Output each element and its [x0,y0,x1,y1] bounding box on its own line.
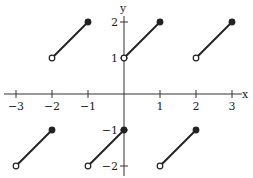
open-endpoint [85,163,91,169]
closed-endpoint [49,127,55,133]
y-tick-label: 1 [111,52,118,65]
y-tick-label: −1 [102,124,118,137]
open-endpoint [49,55,55,61]
closed-endpoint [85,19,91,25]
function-graph: −3−2−1123 21−1−2 x y [0,0,253,178]
segment [13,127,55,169]
segment [157,127,199,169]
closed-endpoint [193,127,199,133]
closed-endpoint [121,127,127,133]
segment [49,19,91,61]
open-endpoint [13,163,19,169]
open-endpoint [157,163,163,169]
closed-endpoint [229,19,235,25]
x-tick-label: 1 [157,100,164,113]
x-tick-label: −2 [44,100,60,113]
x-tick-label: 2 [193,100,200,113]
y-tick-label: −2 [102,160,118,173]
segment [121,19,163,61]
y-axis-label: y [119,2,127,15]
open-endpoint [121,55,127,61]
segment [193,19,235,61]
x-tick-label: 3 [229,100,236,113]
closed-endpoint [157,19,163,25]
x-tick-label: −3 [8,100,24,113]
x-tick-label: −1 [80,100,96,113]
open-endpoint [193,55,199,61]
x-axis-label: x [242,88,249,101]
axes [4,16,242,176]
x-ticks: −3−2−1123 [8,90,236,113]
y-tick-label: 2 [111,16,118,29]
